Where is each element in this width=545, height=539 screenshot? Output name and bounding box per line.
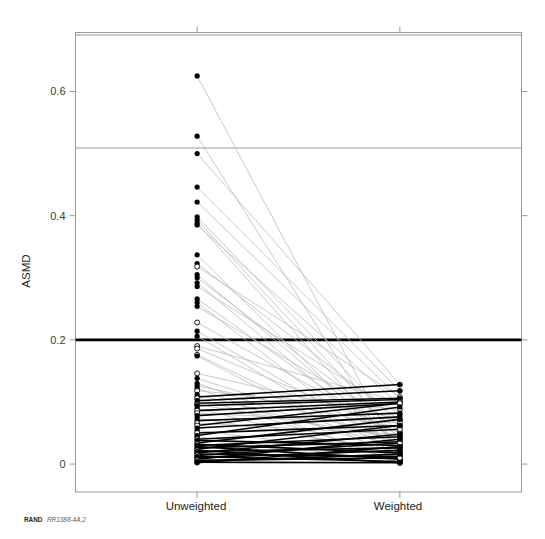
data-point <box>397 437 402 442</box>
data-point <box>195 199 200 204</box>
y-axis-title: ASMD <box>20 254 32 287</box>
data-point <box>397 444 402 449</box>
data-point <box>195 185 200 190</box>
data-point <box>195 151 200 156</box>
data-point <box>397 417 402 422</box>
data-point <box>397 404 402 409</box>
data-point <box>397 382 402 387</box>
data-point <box>397 388 402 393</box>
x-axis-category-weighted: Weighted <box>374 500 422 512</box>
credit-organization: RAND <box>24 516 43 523</box>
data-point <box>195 252 200 257</box>
y-tick-label-0: 0 <box>59 458 65 470</box>
data-point <box>195 275 200 280</box>
asmd-figure: 00.20.40.6 ASMD Unweighted Weighted RAND… <box>0 0 545 539</box>
data-point <box>195 134 200 139</box>
data-point <box>195 346 200 351</box>
data-point <box>195 284 200 289</box>
data-point <box>195 334 200 339</box>
data-point <box>195 304 200 309</box>
data-point <box>195 222 200 227</box>
data-point <box>397 460 402 465</box>
asmd-parallel-coordinates-chart: 00.20.40.6 ASMD Unweighted Weighted RAND… <box>0 0 545 539</box>
series-link <box>197 462 400 463</box>
credit-report-id: RR1388-4A.2 <box>47 516 86 523</box>
y-tick-label-1: 0.2 <box>50 334 65 346</box>
data-point <box>195 264 200 269</box>
data-point <box>195 376 200 381</box>
data-point <box>397 432 402 437</box>
y-tick-label-2: 0.4 <box>50 210 65 222</box>
x-axis-category-unweighted: Unweighted <box>166 500 227 512</box>
data-point <box>195 329 200 334</box>
data-point <box>195 73 200 78</box>
data-point <box>195 460 200 465</box>
data-point <box>195 320 200 325</box>
y-tick-label-3: 0.6 <box>50 85 65 97</box>
data-point <box>195 371 200 376</box>
data-point <box>397 452 402 457</box>
data-point <box>195 353 200 358</box>
data-point <box>397 423 402 428</box>
